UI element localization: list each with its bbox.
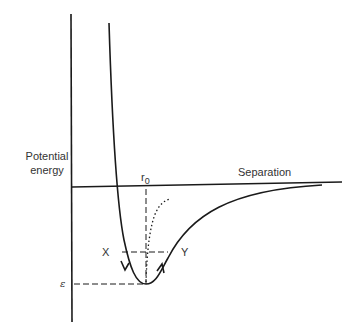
point-y-label: Y xyxy=(181,245,188,259)
point-x-label: X xyxy=(102,245,109,259)
r0-label: r0 xyxy=(141,170,150,188)
r0-label-subscript: 0 xyxy=(145,176,150,186)
y-axis-label-line1: Potential xyxy=(22,149,72,163)
arrow-down-icon xyxy=(121,261,129,270)
x-axis-label: Separation xyxy=(238,165,291,179)
y-axis-label-line2: energy xyxy=(22,163,72,177)
epsilon-label: ε xyxy=(60,277,65,291)
y-axis-label: Potential energy xyxy=(22,149,72,177)
potential-curve xyxy=(109,23,322,284)
